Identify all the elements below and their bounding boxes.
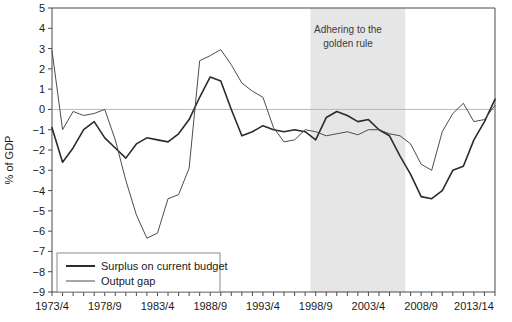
y-tick-label: −2 bbox=[32, 144, 45, 156]
y-tick-label: −7 bbox=[32, 245, 45, 257]
golden-rule-shaded-band bbox=[310, 8, 405, 292]
y-tick-label: 1 bbox=[39, 83, 45, 95]
golden-rule-band-rect bbox=[310, 8, 405, 292]
y-tick-label: −8 bbox=[32, 266, 45, 278]
x-tick-label: 1988/9 bbox=[193, 300, 227, 312]
legend-label-output-gap: Output gap bbox=[101, 275, 155, 287]
x-tick-label: 1998/9 bbox=[299, 300, 333, 312]
y-tick-label: −5 bbox=[32, 205, 45, 217]
chart-canvas: 543210−1−2−3−4−5−6−7−8−9 1973/41978/9198… bbox=[0, 0, 512, 322]
y-tick-label: −4 bbox=[32, 185, 45, 197]
chart-legend[interactable]: Surplus on current budget Output gap bbox=[57, 253, 228, 292]
x-tick-label: 1973/4 bbox=[35, 300, 69, 312]
legend-label-surplus: Surplus on current budget bbox=[101, 260, 228, 272]
x-tick-label: 1978/9 bbox=[88, 300, 122, 312]
x-tick-label: 2013/14 bbox=[454, 300, 494, 312]
y-tick-label: 5 bbox=[39, 2, 45, 14]
x-tick-label: 2008/9 bbox=[404, 300, 438, 312]
y-axis-title: % of GDP bbox=[3, 136, 15, 185]
x-tick-label: 2003/4 bbox=[352, 300, 386, 312]
y-tick-label: 2 bbox=[39, 63, 45, 75]
y-tick-label: −1 bbox=[32, 124, 45, 136]
y-tick-label: 4 bbox=[39, 22, 45, 34]
x-tick-label: 1993/4 bbox=[246, 300, 280, 312]
y-tick-label: −9 bbox=[32, 286, 45, 298]
chart-figure: 543210−1−2−3−4−5−6−7−8−9 1973/41978/9198… bbox=[0, 0, 512, 322]
y-tick-label: 3 bbox=[39, 43, 45, 55]
annotation-line-1: Adhering to the bbox=[314, 24, 382, 35]
x-tick-label: 1983/4 bbox=[141, 300, 175, 312]
y-tick-label: −6 bbox=[32, 225, 45, 237]
annotation-line-2: golden rule bbox=[323, 38, 373, 49]
y-tick-label: −3 bbox=[32, 164, 45, 176]
y-tick-label: 0 bbox=[39, 103, 45, 115]
